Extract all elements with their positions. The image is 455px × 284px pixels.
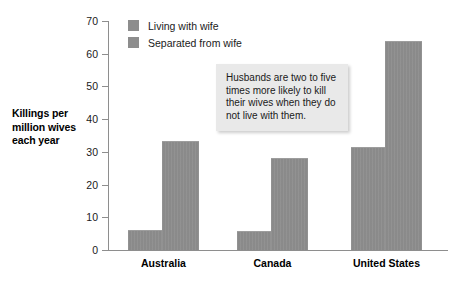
bar-australia-separated-from-wife: [162, 141, 199, 250]
category-label-australia: Australia: [110, 257, 217, 269]
bar-texture: [351, 148, 385, 250]
y-axis-tick-label: 20: [74, 179, 98, 191]
bar-chart: Killings per million wives each year 010…: [0, 0, 455, 284]
bar-group-canada: [237, 21, 308, 250]
bar-texture: [237, 232, 271, 250]
y-axis-tick-label: 0: [74, 244, 98, 256]
legend-item-separated-from-wife: Separated from wife: [128, 35, 242, 50]
bar-texture: [162, 142, 199, 250]
bar-texture: [271, 159, 308, 250]
legend-label: Separated from wife: [148, 37, 242, 49]
y-axis-tick-label: 50: [74, 80, 98, 92]
plot-area: [108, 21, 448, 250]
legend-swatch-icon: [128, 37, 139, 48]
bar-australia-living-with-wife: [128, 230, 162, 250]
bar-united-states-separated-from-wife: [385, 41, 422, 250]
bar-texture: [128, 231, 162, 250]
y-axis-tick-label: 10: [74, 211, 98, 223]
y-axis-tick-label: 70: [74, 15, 98, 27]
bar-canada-living-with-wife: [237, 231, 271, 250]
bar-united-states-living-with-wife: [351, 147, 385, 250]
legend: Living with wife Separated from wife: [128, 18, 242, 52]
y-axis-tick-label: 60: [74, 48, 98, 60]
category-label-united-states: United States: [333, 257, 440, 269]
bar-texture: [385, 42, 422, 250]
legend-swatch-icon: [128, 20, 139, 31]
x-axis-line: [108, 250, 448, 251]
legend-label: Living with wife: [148, 20, 219, 32]
legend-item-living-with-wife: Living with wife: [128, 18, 242, 33]
y-axis-tick-label: 40: [74, 113, 98, 125]
bar-group-united-states: [351, 21, 422, 250]
category-label-canada: Canada: [219, 257, 326, 269]
y-axis-tick: [102, 250, 108, 251]
bar-canada-separated-from-wife: [271, 158, 308, 250]
bar-group-australia: [128, 21, 199, 250]
y-axis-tick-label: 30: [74, 146, 98, 158]
callout-box: Husbands are two to five times more like…: [216, 64, 348, 131]
callout-text: Husbands are two to five times more like…: [226, 72, 339, 122]
